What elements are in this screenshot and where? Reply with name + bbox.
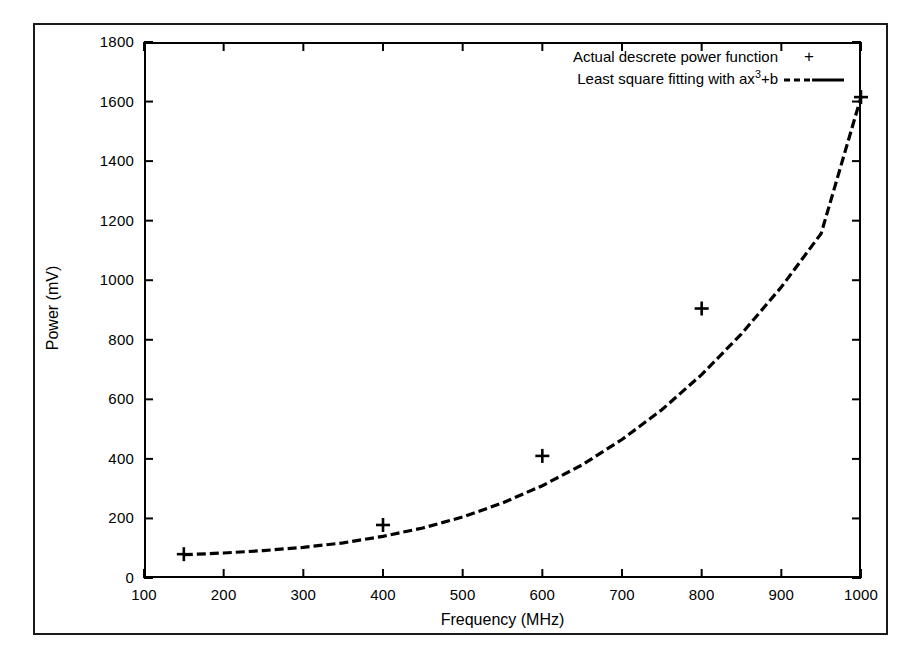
legend-label-fit-suffix: +b (761, 70, 778, 87)
y-tick-label: 200 (60, 510, 134, 525)
x-tick-label: 400 (343, 587, 423, 602)
plus-marker-icon: + (804, 46, 814, 68)
x-tick-label: 800 (662, 587, 742, 602)
x-tick-label: 500 (423, 587, 503, 602)
y-tick-label: 400 (60, 451, 134, 466)
legend-label-fit-prefix: Least square fitting with ax (577, 70, 755, 87)
legend-key-actual: + (782, 46, 848, 68)
y-tick-label: 0 (60, 570, 134, 585)
legend-entry-actual: Actual descrete power function + (536, 46, 856, 68)
y-axis-title: Power (mV) (44, 238, 62, 378)
dashed-line-sample-icon (782, 68, 848, 90)
x-tick-label: 200 (184, 587, 264, 602)
x-tick-label: 1000 (821, 587, 901, 602)
x-tick-label: 300 (263, 587, 343, 602)
axis-ticks (144, 42, 861, 578)
x-tick-label: 600 (502, 587, 582, 602)
data-point-markers (177, 90, 868, 561)
x-tick-label: 100 (104, 587, 184, 602)
fit-curve (184, 97, 861, 555)
legend-key-fit (782, 68, 848, 90)
chart-page: 020040060080010001200140016001800 100200… (0, 0, 916, 658)
x-tick-label: 700 (582, 587, 662, 602)
legend-label-actual: Actual descrete power function (573, 46, 778, 68)
y-tick-label: 600 (60, 391, 134, 406)
y-tick-label: 1600 (60, 94, 134, 109)
y-tick-label: 1800 (60, 34, 134, 49)
y-tick-label: 800 (60, 332, 134, 347)
plot-canvas (144, 42, 861, 578)
x-tick-label: 900 (741, 587, 821, 602)
x-axis-title: Frequency (MHz) (144, 611, 861, 629)
legend-entry-fit: Least square fitting with ax3+b (536, 68, 856, 90)
y-tick-label: 1400 (60, 153, 134, 168)
y-tick-label: 1000 (60, 272, 134, 287)
y-tick-label: 1200 (60, 213, 134, 228)
legend-label-fit: Least square fitting with ax3+b (577, 68, 778, 90)
legend: Actual descrete power function + Least s… (536, 46, 856, 90)
